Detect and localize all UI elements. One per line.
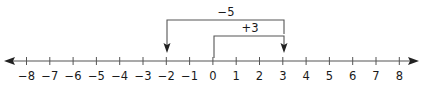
number-line-diagram: −8−7−6−5−4−3−2−1012345678 −5 +3 (0, 0, 426, 89)
tick-label: −8 (18, 69, 35, 83)
move-label-plus-3: +3 (242, 21, 259, 35)
tick-label: 5 (326, 69, 333, 83)
move-plus-3: +3 (214, 21, 288, 58)
tick-label: −6 (65, 69, 82, 83)
tick-label: −1 (181, 69, 198, 83)
move-minus-5: −5 (164, 5, 285, 53)
tick-label: −7 (41, 69, 58, 83)
tick-label: 8 (396, 69, 403, 83)
tick-label: −2 (158, 69, 175, 83)
tick-label: 7 (372, 69, 379, 83)
tick-label: 0 (209, 69, 216, 83)
move-label-minus-5: −5 (218, 5, 235, 19)
tick-labels: −8−7−6−5−4−3−2−1012345678 (18, 69, 403, 83)
tick-label: 4 (302, 69, 309, 83)
tick-label: −4 (111, 69, 128, 83)
tick-label: 3 (279, 69, 286, 83)
tick-label: 2 (256, 69, 263, 83)
tick-label: −3 (135, 69, 152, 83)
tick-label: 6 (349, 69, 356, 83)
tick-label: −5 (88, 69, 105, 83)
tick-label: 1 (233, 69, 240, 83)
